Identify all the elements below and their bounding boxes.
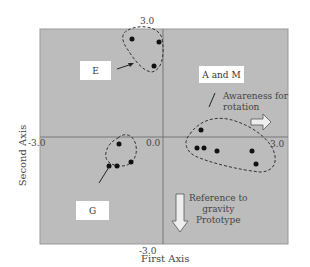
cluster-am-label: A and M [199,66,244,83]
note-rotation: Awareness for rotation [223,91,288,113]
origin-tick: 0.0 [146,138,160,148]
cluster-g-label: G [76,201,109,220]
data-point [129,160,134,165]
cluster-e-label: E [80,61,111,80]
data-point [117,142,122,147]
data-point [215,149,220,154]
y-axis-label: Second Axis [17,125,28,187]
note-gravity: Reference to gravity Prototype [189,193,247,226]
data-point [195,146,200,151]
scatter-plot [0,0,310,267]
y-max-tick: 3.0 [140,16,154,26]
data-point [250,149,255,154]
data-point [199,128,204,133]
data-point [130,37,135,42]
data-point [152,64,157,69]
data-point [202,146,207,151]
x-axis-label: First Axis [141,253,189,264]
x-min-tick: -3.0 [28,138,45,148]
data-point [115,164,120,169]
data-point [157,40,162,45]
data-point [254,162,259,167]
x-max-tick: 3.0 [270,139,284,149]
